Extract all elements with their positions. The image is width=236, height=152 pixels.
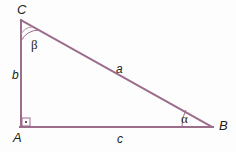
side-label-a: a bbox=[116, 63, 123, 75]
angle-label-beta: β bbox=[31, 38, 38, 51]
vertex-label-c: C bbox=[17, 3, 26, 16]
angle-arc-beta-inner-icon bbox=[21, 27, 32, 34]
diagram-canvas: C A B a b c β α bbox=[0, 0, 236, 152]
right-angle-dot-icon bbox=[25, 121, 27, 123]
vertex-label-a: A bbox=[13, 131, 22, 144]
triangle-figure bbox=[0, 0, 236, 152]
vertex-label-b: B bbox=[219, 119, 228, 132]
side-label-c: c bbox=[117, 133, 123, 145]
side-label-b: b bbox=[12, 69, 19, 81]
angle-label-alpha: α bbox=[181, 112, 188, 125]
